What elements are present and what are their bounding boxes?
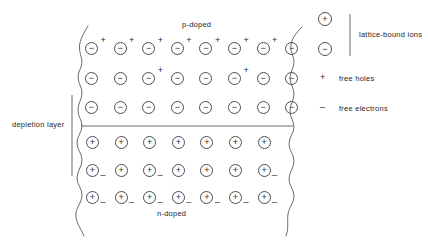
left-wavy-boundary bbox=[76, 26, 88, 236]
n-doped-label: n-doped bbox=[157, 210, 186, 218]
negative-ion-symbol: − bbox=[175, 103, 180, 112]
positive-ion-symbol: + bbox=[176, 193, 181, 202]
negative-ion: − bbox=[171, 72, 184, 85]
negative-ion-symbol: − bbox=[289, 103, 294, 112]
negative-ion-symbol: − bbox=[146, 103, 151, 112]
free-hole: + bbox=[101, 36, 106, 45]
negative-ion: − bbox=[171, 101, 184, 114]
positive-ion: + bbox=[86, 191, 99, 204]
negative-ion: − bbox=[85, 42, 98, 55]
negative-ion-symbol: − bbox=[146, 44, 151, 53]
positive-ion: + bbox=[115, 191, 128, 204]
positive-ion-symbol: + bbox=[147, 138, 152, 147]
positive-ion-symbol: + bbox=[233, 193, 238, 202]
positive-ion: + bbox=[172, 136, 185, 149]
negative-ion-symbol: − bbox=[203, 74, 208, 83]
legend-positive-ion-symbol: + bbox=[322, 14, 327, 24]
negative-ion-symbol: − bbox=[260, 44, 265, 53]
positive-ion: + bbox=[115, 136, 128, 149]
negative-ion-symbol: − bbox=[260, 103, 265, 112]
positive-ion-symbol: + bbox=[233, 138, 238, 147]
negative-ion: − bbox=[114, 42, 127, 55]
free-hole: + bbox=[129, 36, 134, 45]
negative-ion: − bbox=[114, 72, 127, 85]
negative-ion-symbol: − bbox=[89, 74, 94, 83]
negative-ion-symbol: − bbox=[232, 44, 237, 53]
legend-free-electron-icon: – bbox=[320, 103, 325, 112]
positive-ion-symbol: + bbox=[147, 193, 152, 202]
legend-free-hole-icon: + bbox=[320, 73, 325, 82]
depletion-layer-label: depletion layer bbox=[12, 121, 65, 129]
positive-ion-symbol: + bbox=[204, 193, 209, 202]
legend-free-electrons-label: free electrons bbox=[339, 105, 388, 113]
positive-ion-symbol: + bbox=[176, 166, 181, 175]
legend-negative-ion-icon: − bbox=[318, 42, 332, 56]
negative-ion: − bbox=[228, 101, 241, 114]
positive-ion-symbol: + bbox=[118, 138, 123, 147]
positive-ion-symbol: + bbox=[147, 166, 152, 175]
negative-ion-symbol: − bbox=[117, 44, 122, 53]
positive-ion-symbol: + bbox=[204, 166, 209, 175]
negative-ion-symbol: − bbox=[289, 44, 294, 53]
positive-ion: + bbox=[172, 164, 185, 177]
negative-ion-symbol: − bbox=[175, 44, 180, 53]
positive-ion: + bbox=[229, 136, 242, 149]
positive-ion: + bbox=[229, 191, 242, 204]
free-electron: _ bbox=[186, 194, 191, 203]
negative-ion: − bbox=[85, 72, 98, 85]
negative-ion: − bbox=[257, 72, 270, 85]
free-hole: + bbox=[186, 36, 191, 45]
negative-ion-symbol: − bbox=[146, 74, 151, 83]
negative-ion-symbol: − bbox=[117, 103, 122, 112]
legend-negative-ion-symbol: − bbox=[322, 44, 327, 54]
positive-ion: + bbox=[258, 136, 271, 149]
positive-ion-symbol: + bbox=[90, 166, 95, 175]
negative-ion-symbol: − bbox=[89, 44, 94, 53]
free-electron: _ bbox=[158, 167, 163, 176]
positive-ion-symbol: + bbox=[176, 138, 181, 147]
free-electron: _ bbox=[215, 194, 220, 203]
legend-lattice-bound-ions-label: lattice-bound ions bbox=[359, 31, 422, 39]
free-electron: _ bbox=[272, 167, 277, 176]
positive-ion: + bbox=[115, 164, 128, 177]
negative-ion-symbol: − bbox=[260, 74, 265, 83]
positive-ion-symbol: + bbox=[204, 138, 209, 147]
legend-free-holes-label: free holes bbox=[339, 75, 374, 83]
negative-ion-symbol: − bbox=[117, 74, 122, 83]
p-doped-label: p-doped bbox=[182, 21, 211, 29]
positive-ion-symbol: + bbox=[233, 166, 238, 175]
free-hole: + bbox=[244, 36, 249, 45]
positive-ion: + bbox=[86, 164, 99, 177]
negative-ion: − bbox=[228, 42, 241, 55]
negative-ion: − bbox=[114, 101, 127, 114]
free-electron: _ bbox=[158, 194, 163, 203]
free-electron: _ bbox=[101, 167, 106, 176]
free-electron: _ bbox=[272, 194, 277, 203]
negative-ion: − bbox=[257, 42, 270, 55]
negative-ion: − bbox=[171, 42, 184, 55]
legend-positive-ion-icon: + bbox=[318, 12, 332, 26]
right-wavy-boundary bbox=[286, 27, 302, 236]
free-electron: _ bbox=[244, 194, 249, 203]
free-hole: + bbox=[158, 66, 163, 75]
free-electron: _ bbox=[129, 194, 134, 203]
negative-ion: − bbox=[85, 101, 98, 114]
positive-ion: + bbox=[172, 191, 185, 204]
positive-ion: + bbox=[86, 136, 99, 149]
positive-ion-symbol: + bbox=[90, 193, 95, 202]
free-hole: + bbox=[244, 66, 249, 75]
positive-ion: + bbox=[258, 191, 271, 204]
free-hole: + bbox=[272, 36, 277, 45]
free-hole: + bbox=[215, 36, 220, 45]
positive-ion-symbol: + bbox=[261, 193, 266, 202]
positive-ion-symbol: + bbox=[118, 166, 123, 175]
negative-ion-symbol: − bbox=[203, 44, 208, 53]
positive-ion-symbol: + bbox=[261, 138, 266, 147]
positive-ion: + bbox=[258, 164, 271, 177]
positive-ion-symbol: + bbox=[90, 138, 95, 147]
free-hole: + bbox=[158, 36, 163, 45]
negative-ion-symbol: − bbox=[203, 103, 208, 112]
negative-ion-symbol: − bbox=[232, 103, 237, 112]
negative-ion-symbol: − bbox=[89, 103, 94, 112]
negative-ion-symbol: − bbox=[175, 74, 180, 83]
